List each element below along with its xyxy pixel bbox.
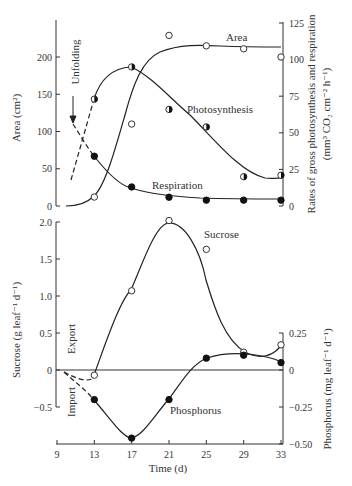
data-point bbox=[278, 54, 284, 60]
data-point bbox=[203, 355, 209, 361]
unfolding-label: Unfolding bbox=[69, 39, 81, 85]
tick-label: −0.50 bbox=[289, 439, 312, 450]
data-point bbox=[91, 194, 97, 200]
tick-label: 100 bbox=[37, 126, 52, 137]
data-point bbox=[240, 46, 246, 52]
data-point bbox=[278, 342, 284, 348]
sucrose-curve bbox=[94, 223, 280, 375]
data-point bbox=[166, 396, 172, 402]
data-markers bbox=[91, 32, 284, 441]
data-point bbox=[128, 288, 134, 294]
bottom-y-axis-label: Sucrose (g leaf⁻¹ d⁻¹) bbox=[10, 282, 23, 378]
tick-label: 21 bbox=[164, 449, 174, 460]
data-point bbox=[91, 372, 97, 378]
data-point bbox=[91, 396, 97, 402]
tick-label: 2.0 bbox=[40, 217, 53, 228]
tick-label: 0.25 bbox=[289, 328, 307, 339]
phosphorus-curve bbox=[94, 354, 281, 438]
data-point bbox=[166, 217, 172, 223]
photosynthesis-label: Photosynthesis bbox=[187, 103, 253, 115]
tick-label: 200 bbox=[37, 52, 52, 63]
data-point bbox=[278, 359, 284, 365]
tick-label: 150 bbox=[37, 89, 52, 100]
tick-label: 50 bbox=[289, 127, 299, 138]
tick-label: 9 bbox=[55, 449, 60, 460]
data-point bbox=[166, 194, 172, 200]
tick-label: −0.5 bbox=[34, 402, 52, 413]
sucrose-extrapolation bbox=[64, 372, 92, 380]
area-label: Area bbox=[226, 31, 247, 43]
leaf-development-chart: 050100150200 0255075100125 −0.500.51.01.… bbox=[0, 0, 352, 486]
bottom-y2-axis-label: Phosphorus (mg leaf⁻¹ d⁻¹) bbox=[321, 328, 334, 450]
respiration-curve bbox=[94, 156, 281, 199]
export-label: Export bbox=[65, 324, 77, 354]
import-label: Import bbox=[65, 387, 77, 417]
top-y-axis-label: Area (cm²) bbox=[10, 94, 23, 143]
top-left-ticks: 050100150200 bbox=[37, 52, 60, 212]
tick-label: 75 bbox=[289, 91, 299, 102]
tick-label: 0.5 bbox=[40, 328, 53, 339]
top-y2-axis-label-2: (mm³ CO₂ cm⁻² h⁻¹) bbox=[320, 68, 333, 161]
tick-label: 25 bbox=[201, 449, 211, 460]
top-y2-axis-label-1: Rates of gross photosynthesis and respir… bbox=[305, 14, 317, 213]
photosynthesis-curve bbox=[94, 67, 281, 178]
tick-label: 100 bbox=[289, 54, 304, 65]
data-point bbox=[128, 184, 134, 190]
data-point bbox=[166, 32, 172, 38]
tick-label: 33 bbox=[276, 449, 286, 460]
respiration-extrapolation bbox=[73, 124, 94, 156]
unfolding-arrow bbox=[70, 96, 76, 123]
tick-label: 0 bbox=[47, 201, 52, 212]
data-point bbox=[203, 43, 209, 49]
data-point bbox=[128, 121, 134, 127]
tick-label: 17 bbox=[127, 449, 137, 460]
data-point bbox=[128, 435, 134, 441]
data-point bbox=[91, 153, 97, 159]
data-point bbox=[240, 352, 246, 358]
tick-label: 125 bbox=[289, 18, 304, 29]
respiration-label: Respiration bbox=[152, 179, 203, 191]
tick-label: −0.25 bbox=[289, 402, 312, 413]
tick-label: 1.0 bbox=[40, 291, 53, 302]
tick-label: 29 bbox=[239, 449, 249, 460]
tick-label: 50 bbox=[42, 163, 52, 174]
sucrose-label: Sucrose bbox=[204, 228, 239, 240]
phosphorus-label: Phosphorus bbox=[170, 404, 221, 416]
data-point bbox=[203, 246, 209, 252]
tick-label: 0 bbox=[47, 365, 52, 376]
tick-label: 25 bbox=[289, 164, 299, 175]
data-point bbox=[203, 197, 209, 203]
data-point bbox=[278, 197, 284, 203]
tick-label: 13 bbox=[89, 449, 99, 460]
data-point bbox=[240, 197, 246, 203]
tick-label: 0 bbox=[289, 365, 294, 376]
tick-label: 1.5 bbox=[40, 254, 53, 265]
x-ticks: 9131721252933 bbox=[55, 440, 287, 460]
tick-label: 0 bbox=[289, 201, 294, 212]
x-axis-label: Time (d) bbox=[149, 462, 188, 475]
